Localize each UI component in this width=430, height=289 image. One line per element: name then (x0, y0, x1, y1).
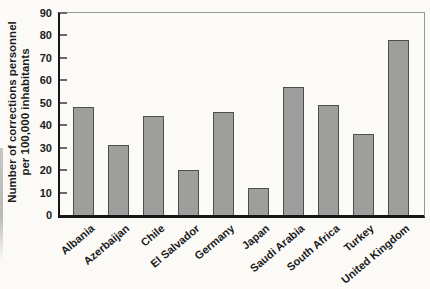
y-tick-mark (60, 192, 67, 194)
bar-south-africa (318, 105, 339, 215)
bar-chile (143, 116, 164, 215)
bar-el-salvador (178, 170, 199, 215)
y-tick-mark (60, 124, 67, 126)
y-tick-mark (60, 169, 67, 171)
y-tick-mark (60, 57, 67, 59)
y-tick-label: 60 (40, 73, 52, 87)
y-axis-title-line1: Number of corrections personnel (6, 21, 19, 202)
plot-area (58, 12, 425, 218)
bar-germany (213, 112, 234, 215)
scan-edge-artifact (0, 148, 3, 260)
bar-albania (73, 107, 94, 215)
x-tick-label-united-kingdom: United Kingdom (338, 222, 411, 286)
y-tick-mark (60, 147, 67, 149)
x-tick-label-chile: Chile (138, 222, 166, 248)
y-tick-mark (60, 12, 67, 14)
y-axis-title-line2: per 100,000 inhabitants (19, 21, 32, 202)
y-tick-label: 30 (40, 141, 52, 155)
y-tick-mark (60, 79, 67, 81)
x-tick-label-germany: Germany (192, 222, 236, 262)
x-tick-label-japan: Japan (239, 222, 271, 252)
y-tick-label: 80 (40, 28, 52, 42)
x-tick-label-south-africa: South Africa (284, 222, 342, 273)
y-tick-label: 50 (40, 96, 52, 110)
y-tick-label: 70 (40, 51, 52, 65)
y-tick-label: 0 (46, 208, 52, 222)
y-tick-label: 20 (40, 163, 52, 177)
y-tick-mark (60, 102, 67, 104)
y-axis-title: Number of corrections personnel per 100,… (6, 21, 32, 202)
y-tick-label: 10 (40, 186, 52, 200)
bar-japan (248, 188, 269, 215)
y-tick-label: 40 (40, 118, 52, 132)
x-tick-label-el-salvador: El Salvador (148, 222, 202, 270)
bar-chart-figure: Number of corrections personnel per 100,… (0, 0, 430, 289)
bar-saudi-arabia (283, 87, 304, 215)
x-tick-label-saudi-arabia: Saudi Arabia (247, 222, 306, 274)
y-tick-mark (60, 34, 67, 36)
y-tick-label: 90 (40, 6, 52, 20)
x-tick-label-turkey: Turkey (341, 222, 376, 254)
x-tick-label-albania: Albania (58, 222, 96, 257)
x-tick-label-azerbaijan: Azerbaijan (81, 222, 131, 267)
bar-turkey (353, 134, 374, 215)
bar-azerbaijan (108, 145, 129, 215)
bar-united-kingdom (388, 40, 409, 215)
